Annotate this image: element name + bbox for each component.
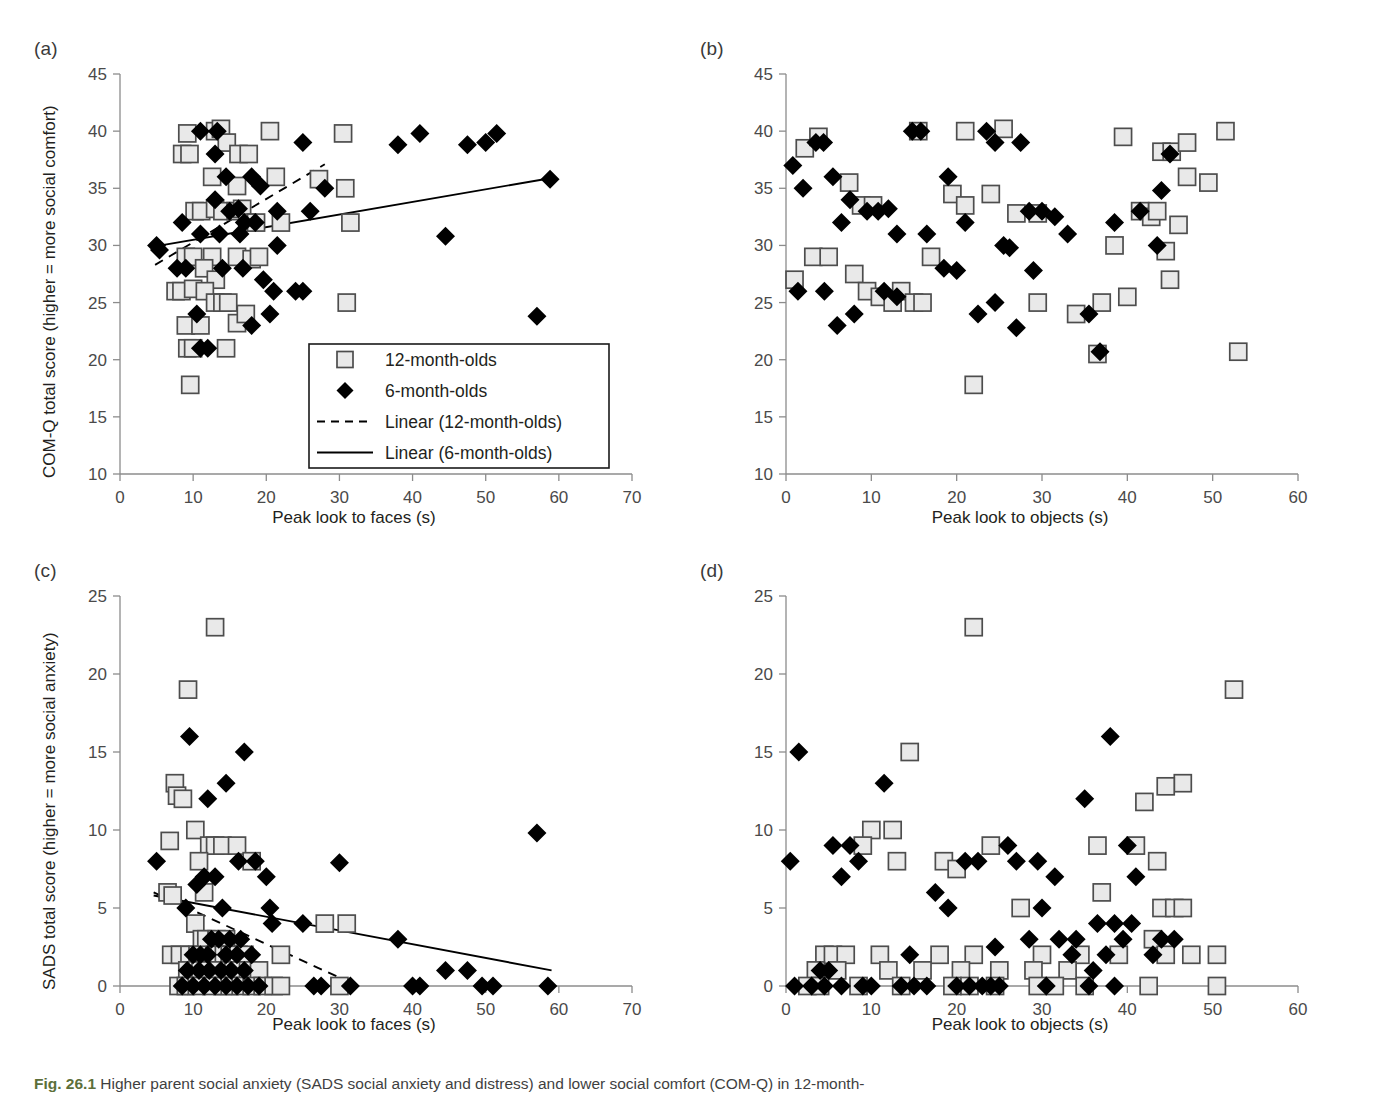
data-point-diamond bbox=[875, 774, 894, 793]
data-point-square bbox=[338, 294, 355, 311]
data-point-diamond bbox=[1011, 133, 1030, 152]
data-point-diamond bbox=[527, 824, 546, 843]
y-tick-label: 10 bbox=[754, 821, 773, 840]
data-point-square bbox=[261, 123, 278, 140]
data-point-square bbox=[982, 186, 999, 203]
data-point-square bbox=[820, 248, 837, 265]
y-tick-label: 20 bbox=[88, 665, 107, 684]
data-point-square bbox=[1179, 134, 1196, 151]
data-point-diamond bbox=[388, 930, 407, 949]
data-point-diamond bbox=[388, 135, 407, 154]
y-tick-label: 45 bbox=[754, 65, 773, 84]
data-point-diamond bbox=[781, 852, 800, 871]
x-tick-label: 20 bbox=[257, 488, 276, 507]
data-point-diamond bbox=[815, 282, 834, 301]
data-point-diamond bbox=[293, 914, 312, 933]
data-point-square bbox=[1170, 216, 1187, 233]
data-point-diamond bbox=[198, 789, 217, 808]
data-point-square bbox=[1208, 978, 1225, 995]
series-diamond bbox=[147, 727, 557, 996]
data-point-diamond bbox=[845, 305, 864, 324]
data-point-square bbox=[316, 915, 333, 932]
y-tick-label: 15 bbox=[754, 408, 773, 427]
data-point-square bbox=[250, 248, 267, 265]
data-point-diamond bbox=[956, 213, 975, 232]
legend-label: Linear (12-month-olds) bbox=[385, 412, 562, 432]
data-point-square bbox=[161, 832, 178, 849]
y-tick-label: 40 bbox=[754, 122, 773, 141]
data-point-diamond bbox=[986, 938, 1005, 957]
legend-marker-square bbox=[337, 352, 353, 368]
data-point-square bbox=[1059, 962, 1076, 979]
data-point-diamond bbox=[484, 977, 503, 996]
data-point-square bbox=[1162, 271, 1179, 288]
panel-c-plot: 0510152025010203040506070 bbox=[34, 578, 654, 1028]
data-point-square bbox=[1106, 237, 1123, 254]
data-point-diamond bbox=[1122, 914, 1141, 933]
data-point-square bbox=[187, 915, 204, 932]
panel-b-plot: 10152025303540450102030405060 bbox=[700, 56, 1320, 526]
legend-label: 12-month-olds bbox=[385, 350, 497, 370]
data-point-diamond bbox=[998, 836, 1017, 855]
data-point-square bbox=[965, 946, 982, 963]
data-point-diamond bbox=[410, 124, 429, 143]
data-point-diamond bbox=[794, 179, 813, 198]
data-point-square bbox=[952, 962, 969, 979]
data-point-square bbox=[229, 837, 246, 854]
data-point-square bbox=[337, 180, 354, 197]
data-point-diamond bbox=[260, 899, 279, 918]
data-point-square bbox=[1183, 946, 1200, 963]
data-point-square bbox=[207, 619, 224, 636]
data-point-diamond bbox=[789, 743, 808, 762]
data-point-diamond bbox=[828, 316, 847, 335]
data-point-diamond bbox=[832, 867, 851, 886]
data-point-square bbox=[805, 248, 822, 265]
data-point-diamond bbox=[541, 170, 560, 189]
data-point-diamond bbox=[823, 836, 842, 855]
data-point-square bbox=[179, 125, 196, 142]
data-point-diamond bbox=[268, 236, 287, 255]
panel-a-plot: 101520253035404501020304050607012-month-… bbox=[34, 56, 654, 526]
data-point-diamond bbox=[1024, 261, 1043, 280]
data-point-square bbox=[1034, 946, 1051, 963]
data-point-diamond bbox=[1075, 789, 1094, 808]
data-point-diamond bbox=[330, 853, 349, 872]
data-point-square bbox=[1093, 884, 1110, 901]
data-point-square bbox=[841, 174, 858, 191]
data-point-diamond bbox=[1105, 213, 1124, 232]
data-point-square bbox=[338, 915, 355, 932]
data-point-diamond bbox=[147, 852, 166, 871]
data-point-diamond bbox=[823, 167, 842, 186]
data-point-square bbox=[1115, 128, 1132, 145]
data-point-square bbox=[1140, 978, 1157, 995]
y-tick-label: 30 bbox=[754, 236, 773, 255]
x-tick-label: 40 bbox=[1118, 488, 1137, 507]
data-point-square bbox=[1217, 123, 1234, 140]
data-point-diamond bbox=[939, 899, 958, 918]
panel-b-x-axis-title: Peak look to objects (s) bbox=[810, 508, 1230, 528]
data-point-square bbox=[1157, 778, 1174, 795]
series-square bbox=[159, 619, 355, 995]
data-point-square bbox=[190, 853, 207, 870]
data-point-square bbox=[1089, 837, 1106, 854]
x-tick-label: 0 bbox=[115, 488, 124, 507]
data-point-square bbox=[164, 887, 181, 904]
data-point-square bbox=[1179, 168, 1196, 185]
data-point-diamond bbox=[293, 133, 312, 152]
data-point-diamond bbox=[1050, 930, 1069, 949]
data-point-square bbox=[1208, 946, 1225, 963]
data-point-square bbox=[1174, 900, 1191, 917]
data-point-diamond bbox=[1101, 727, 1120, 746]
data-point-diamond bbox=[917, 225, 936, 244]
data-point-square bbox=[884, 822, 901, 839]
y-tick-label: 45 bbox=[88, 65, 107, 84]
panel-d-plot: 05101520250102030405060 bbox=[700, 578, 1320, 1028]
data-point-diamond bbox=[939, 167, 958, 186]
y-tick-label: 10 bbox=[88, 821, 107, 840]
data-point-diamond bbox=[947, 261, 966, 280]
y-tick-label: 25 bbox=[88, 587, 107, 606]
data-point-square bbox=[931, 946, 948, 963]
x-tick-label: 0 bbox=[115, 1000, 124, 1019]
data-point-diamond bbox=[213, 899, 232, 918]
y-tick-label: 20 bbox=[88, 351, 107, 370]
